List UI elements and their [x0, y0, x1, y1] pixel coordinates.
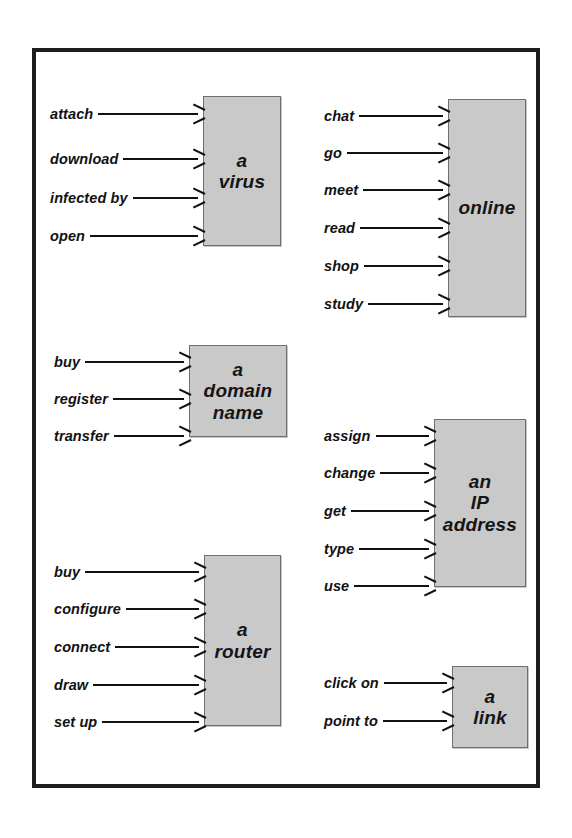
arrow-head-icon [178, 393, 191, 406]
arrow-head-icon [423, 430, 436, 443]
target-box-router: a router [204, 555, 281, 726]
target-label-virus: a virus [215, 150, 269, 193]
arrow-connector [123, 148, 205, 170]
collocate-row: get [324, 500, 436, 522]
collocate-label: chat [324, 108, 359, 124]
arrow-shaft [98, 113, 198, 115]
target-box-online: online [448, 99, 526, 317]
arrow-shaft [359, 115, 443, 117]
collocate-label: open [50, 228, 90, 244]
collocate-label: set up [54, 714, 102, 730]
collocate-label: go [324, 145, 347, 161]
arrow-connector [359, 105, 450, 127]
arrow-head-icon [423, 467, 436, 480]
collocate-row: configure [54, 598, 206, 620]
arrow-connector [90, 225, 205, 247]
arrow-connector [102, 711, 206, 733]
collocate-row: change [324, 462, 436, 484]
arrow-shaft [114, 435, 184, 437]
arrow-connector [363, 179, 450, 201]
arrow-head-icon [192, 230, 205, 243]
arrow-shaft [359, 548, 429, 550]
collocate-label: register [54, 391, 113, 407]
arrow-head-icon [441, 715, 454, 728]
target-box-domain-name: a domain name [189, 345, 287, 437]
arrow-head-icon [178, 356, 191, 369]
worksheet-frame: a virus attach download infected by [32, 48, 540, 788]
arrow-head-icon [192, 108, 205, 121]
arrow-connector [359, 538, 436, 560]
arrow-connector [360, 217, 450, 239]
arrow-head-icon [193, 603, 206, 616]
collocate-label: point to [324, 713, 383, 729]
arrow-shaft [354, 585, 429, 587]
target-label-ip-address: an IP address [439, 471, 521, 535]
arrow-head-icon [423, 505, 436, 518]
arrow-connector [115, 636, 206, 658]
collocate-row: type [324, 538, 436, 560]
collocate-label: buy [54, 564, 85, 580]
arrow-head-icon [193, 641, 206, 654]
collocate-label: buy [54, 354, 85, 370]
collocate-row: connect [54, 636, 206, 658]
collocate-row: download [50, 148, 205, 170]
target-box-virus: a virus [203, 96, 281, 246]
collocate-row: attach [50, 103, 205, 125]
arrow-head-icon [437, 147, 450, 160]
arrow-connector [384, 672, 454, 694]
collocate-row: register [54, 388, 191, 410]
collocate-row: point to [324, 710, 454, 732]
collocate-label: configure [54, 601, 126, 617]
arrow-connector [354, 575, 436, 597]
arrow-shaft [351, 510, 429, 512]
arrow-shaft [126, 608, 199, 610]
arrow-connector [368, 293, 450, 315]
arrow-head-icon [178, 430, 191, 443]
collocate-row: meet [324, 179, 450, 201]
collocate-row: click on [324, 672, 454, 694]
arrow-shaft [90, 235, 198, 237]
arrow-head-icon [441, 677, 454, 690]
arrow-connector [114, 425, 191, 447]
target-box-link: a link [452, 666, 528, 748]
arrow-connector [85, 351, 191, 373]
collocate-row: read [324, 217, 450, 239]
target-label-online: online [454, 197, 519, 218]
collocate-row: open [50, 225, 205, 247]
arrow-shaft [133, 197, 198, 199]
arrow-connector [364, 255, 450, 277]
collocate-row: buy [54, 561, 206, 583]
arrow-shaft [376, 435, 429, 437]
arrow-connector [98, 103, 205, 125]
target-label-domain-name: a domain name [200, 359, 277, 423]
arrow-connector [126, 598, 206, 620]
collocate-label: get [324, 503, 351, 519]
collocate-row: infected by [50, 187, 205, 209]
arrow-connector [113, 388, 191, 410]
collocate-label: change [324, 465, 380, 481]
arrow-connector [133, 187, 205, 209]
target-label-link: a link [469, 686, 511, 729]
arrow-shaft [85, 361, 184, 363]
arrow-connector [383, 710, 454, 732]
arrow-shaft [85, 571, 199, 573]
arrow-shaft [360, 227, 443, 229]
arrow-shaft [113, 398, 184, 400]
arrow-connector [380, 462, 436, 484]
arrow-shaft [384, 682, 447, 684]
collocate-row: chat [324, 105, 450, 127]
arrow-head-icon [437, 260, 450, 273]
arrow-head-icon [193, 566, 206, 579]
arrow-shaft [102, 721, 199, 723]
collocate-row: study [324, 293, 450, 315]
collocate-label: connect [54, 639, 115, 655]
collocate-row: buy [54, 351, 191, 373]
arrow-shaft [364, 265, 443, 267]
arrow-head-icon [437, 222, 450, 235]
collocate-label: use [324, 578, 354, 594]
arrow-head-icon [193, 679, 206, 692]
arrow-connector [376, 425, 436, 447]
arrow-shaft [93, 684, 199, 686]
arrow-head-icon [423, 580, 436, 593]
collocate-label: meet [324, 182, 363, 198]
